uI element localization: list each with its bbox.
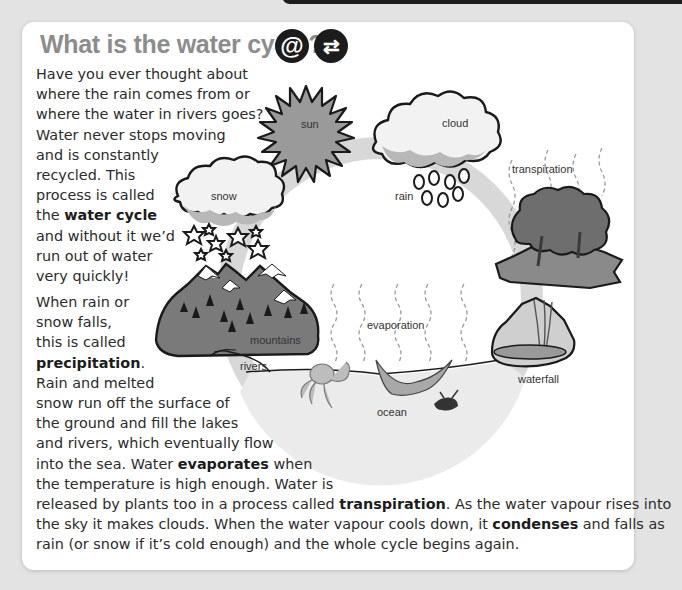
text-line-with-term: into the sea. Water evaporates when [36,454,671,474]
text-line: snow falls, [36,312,671,332]
text-line: Have you ever thought about [36,64,263,84]
text: released by plants too in a process call… [36,496,339,512]
key-term-condenses: condenses [492,516,578,532]
text-line: the ground and fill the lakes [36,413,671,433]
text-line: Rain and melted [36,373,671,393]
key-term-precipitation: precipitation [36,355,140,371]
text-line: the temperature is high enough. Water is [36,474,671,494]
text-line-with-term: the sky it makes clouds. When the water … [36,514,671,534]
text-line: very quickly! [36,266,263,286]
text-line: and rivers, which eventually flow [36,433,671,453]
text-line: recycled. This [36,165,263,185]
intro-paragraph: Have you ever thought about where the ra… [36,64,263,286]
text-line: this is called [36,332,671,352]
text-line: process is called [36,185,263,205]
label-cloud: cloud [442,117,468,129]
text-line-with-term: the water cycle [36,205,263,225]
text-line: where the rain comes from or [36,84,263,104]
explanation-paragraph: When rain or snow falls, this is called … [36,292,671,554]
key-term-transpiration: transpiration [339,496,445,512]
key-term-water-cycle: water cycle [64,207,157,223]
text: the sky it makes clouds. When the water … [36,516,492,532]
label-sun: sun [301,118,319,130]
text: . As the water vapour rises into [446,496,672,512]
text-line: and without it we’d [36,226,263,246]
text-line: where the water in rivers goes? [36,104,263,124]
swap-arrows-icon[interactable]: ⇄ [314,29,348,63]
text: . [140,355,145,371]
text-line: run out of water [36,246,263,266]
text: the [36,207,64,223]
text: when [269,456,312,472]
text-line: and is constantly [36,145,263,165]
text-line: When rain or [36,292,671,312]
raindrops [414,169,469,207]
key-term-evaporates: evaporates [178,456,269,472]
text-line-with-term: released by plants too in a process call… [36,494,671,514]
label-transpiration: transpiration [512,163,573,175]
text-line-with-term: precipitation. [36,353,671,373]
text-line: rain (or snow if it’s cold enough) and t… [36,534,671,554]
cloud-illustration [373,91,501,167]
text: and falls as [578,516,665,532]
text-line: Water never stops moving [36,125,263,145]
text: into the sea. Water [36,456,178,472]
label-rain: rain [395,190,413,202]
text-line: snow run off the surface of [36,393,671,413]
at-icon[interactable]: @ [275,29,309,63]
